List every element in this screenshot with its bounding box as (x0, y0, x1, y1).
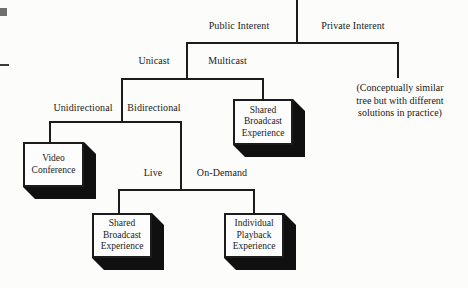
connector-public-drop (186, 42, 188, 79)
note-line-1: (Conceptually similar (330, 82, 468, 95)
note-line-2: tree but with different (330, 95, 468, 108)
box-text-line: Broadcast (244, 116, 282, 128)
scan-artifact-square (0, 8, 7, 16)
label-public-interent: Public Interent (197, 20, 281, 32)
node-box-individual-playback: Individual Playback Experience (224, 213, 284, 258)
decision-tree-diagram: Public Interent Private Interent Unicast… (0, 0, 468, 288)
node-box-individual-playback-face: Individual Playback Experience (224, 213, 284, 258)
label-live: Live (141, 167, 165, 179)
box-text-line: Experience (242, 128, 285, 140)
connector-live-drop (118, 189, 120, 215)
private-branch-note: (Conceptually similar tree but with diff… (330, 82, 468, 120)
connector-ondemand-drop (253, 189, 255, 215)
connector-unicast-split (50, 121, 182, 123)
node-box-live-shared-broadcast: Shared Broadcast Experience (92, 213, 152, 258)
node-box-video-conference-face: Video Conference (23, 142, 84, 187)
node-box-video-conference: Video Conference (23, 142, 84, 187)
label-multicast: Multicast (203, 55, 252, 67)
connector-root-stem (296, 0, 298, 43)
label-private-interent: Private Interent (311, 20, 395, 32)
box-text-line: Individual (234, 218, 273, 230)
scan-artifact-dash (0, 64, 9, 66)
label-on-demand: On-Demand (192, 167, 252, 179)
connector-bidirectional-drop (180, 121, 182, 190)
connector-root-split (187, 42, 399, 44)
box-text-line: Shared (109, 218, 135, 230)
connector-bidirectional-split (119, 189, 255, 191)
box-text-line: Conference (32, 165, 76, 177)
box-text-line: Shared (250, 105, 276, 117)
box-text-line: Experience (233, 241, 276, 253)
box-text-line: Experience (101, 241, 144, 253)
box-text-line: Playback (237, 230, 272, 242)
box-text-line: Broadcast (103, 230, 141, 242)
node-box-multicast-shared-broadcast: Shared Broadcast Experience (233, 99, 293, 145)
label-unicast: Unicast (134, 55, 174, 67)
connector-unicast-drop (121, 78, 123, 122)
connector-multicast-drop (262, 78, 264, 101)
note-line-3: solutions in practice) (330, 107, 468, 120)
label-bidirectional: Bidirectional (124, 102, 184, 114)
label-unidirectional: Unidirectional (48, 102, 118, 114)
connector-public-split (122, 78, 264, 80)
connector-private-drop (397, 42, 399, 78)
connector-unidirectional-drop (49, 121, 51, 144)
box-text-line: Video (42, 153, 65, 165)
node-box-multicast-shared-broadcast-face: Shared Broadcast Experience (233, 99, 293, 145)
node-box-live-shared-broadcast-face: Shared Broadcast Experience (92, 213, 152, 258)
